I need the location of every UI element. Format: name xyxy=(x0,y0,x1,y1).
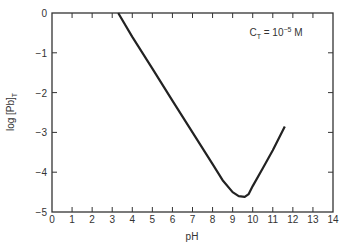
y-tick-label: −4 xyxy=(36,167,48,178)
x-tick-label: 13 xyxy=(307,214,319,225)
y-axis-label: log [Pb]T xyxy=(5,92,18,131)
y-tick-label: −3 xyxy=(36,127,48,138)
chart-svg: 012345678910111213140−1−2−3−4−5 CT = 10−… xyxy=(0,0,344,248)
x-tick-label: 11 xyxy=(268,214,279,225)
x-tick-label: 10 xyxy=(247,214,259,225)
y-tick-label: −1 xyxy=(36,48,48,59)
x-tick-label: 4 xyxy=(130,214,136,225)
x-tick-label: 12 xyxy=(287,214,299,225)
y-tick-label: −5 xyxy=(36,207,48,218)
y-tick-label: 0 xyxy=(41,8,47,19)
y-tick-label: −2 xyxy=(36,88,48,99)
x-tick-label: 5 xyxy=(150,214,156,225)
x-tick-label: 6 xyxy=(170,214,176,225)
x-tick-label: 3 xyxy=(109,214,115,225)
annotation: CT = 10−5 M xyxy=(249,26,302,40)
x-tick-label: 1 xyxy=(69,214,75,225)
x-tick-label: 2 xyxy=(89,214,95,225)
data-line xyxy=(118,13,285,197)
x-tick-label: 7 xyxy=(190,214,196,225)
x-tick-label: 9 xyxy=(230,214,236,225)
plot-area xyxy=(52,13,333,212)
x-tick-label: 14 xyxy=(327,214,339,225)
chart: 012345678910111213140−1−2−3−4−5 CT = 10−… xyxy=(0,0,344,248)
plot-frame xyxy=(52,13,333,212)
x-axis-label: pH xyxy=(186,231,199,242)
axis-ticks: 012345678910111213140−1−2−3−4−5 xyxy=(36,8,339,225)
x-tick-label: 0 xyxy=(49,214,55,225)
x-tick-label: 8 xyxy=(210,214,216,225)
